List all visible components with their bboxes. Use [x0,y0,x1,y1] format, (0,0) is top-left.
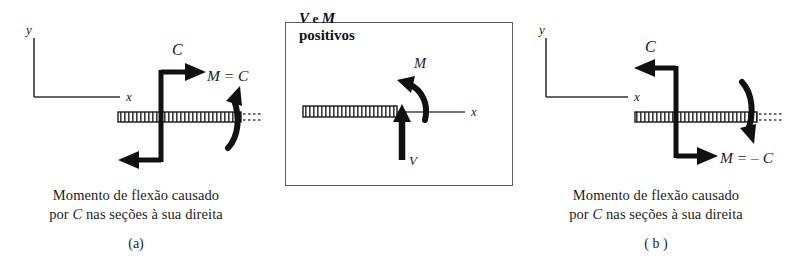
couple-label-a: C [172,41,183,58]
sublabel-a: (a) [0,236,272,252]
centerline-a [243,114,262,120]
couple-label-b: C [645,38,656,55]
panel-a-drawing: y x C [0,0,272,186]
caption-b: Momento de flexão causado por C nas seçõ… [520,186,792,224]
axis-y-label-a: y [24,22,32,37]
beam-b [635,112,757,122]
axis-x-label-a: x [125,89,132,104]
panel-b: y x C [520,0,792,276]
panel-middle-drawing: x V M [285,0,517,200]
panel-a: y x C [0,0,272,276]
moment-label-b: M = – C [719,149,774,166]
axis-x-label-b: x [633,89,640,104]
centerline-b [759,114,782,120]
caption-a-line2-symbol: C [72,206,82,222]
axes-a [34,38,120,97]
caption-a: Momento de flexão causado por C nas seçõ… [0,186,272,224]
panel-b-drawing: y x C [520,0,792,186]
caption-b-line1: Momento de flexão causado [573,187,739,203]
caption-b-line2-symbol: C [592,206,602,222]
beam-a [118,112,241,122]
panel-middle: V e M positivos x [285,0,517,276]
axis-y-label-b: y [537,22,545,37]
axes-b [546,38,628,97]
caption-a-line2-suffix: nas seções à sua direita [82,206,223,222]
figure-root: y x C [0,0,792,276]
caption-a-line1: Momento de flexão causado [53,187,219,203]
moment-label-a: M = C [206,67,249,84]
caption-a-line2-prefix: por [49,206,72,222]
beam-middle [303,106,397,117]
shear-label-v: V [409,153,419,168]
sublabel-b: ( b ) [520,236,792,252]
caption-b-line2-prefix: por [569,206,592,222]
moment-label-middle: M [413,55,427,71]
caption-b-line2-suffix: nas seções à sua direita [602,206,743,222]
axis-x-label-middle: x [470,105,477,119]
